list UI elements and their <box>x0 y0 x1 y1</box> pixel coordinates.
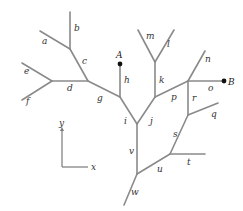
edge-label-o: o <box>208 83 214 93</box>
edge-label-p: p <box>171 92 177 102</box>
edge-label-i: i <box>124 116 127 126</box>
edge-l <box>155 30 174 62</box>
edge-label-s: s <box>173 129 178 139</box>
edge-label-b: b <box>74 23 80 33</box>
edge-g <box>88 81 120 97</box>
point-A-dot-icon <box>118 62 123 67</box>
edge-label-k: k <box>159 75 164 85</box>
edge-label-r: r <box>192 93 197 103</box>
edge-label-u: u <box>157 164 163 174</box>
edge-i <box>120 97 137 124</box>
point-B-dot-icon <box>222 79 227 84</box>
edge-label-t: t <box>187 157 191 167</box>
edges-group <box>22 12 224 205</box>
x-axis-label: x <box>91 162 96 172</box>
edge-label-l: l <box>167 39 170 49</box>
edge-label-q: q <box>211 109 217 119</box>
edge-label-d: d <box>67 83 73 93</box>
y-axis-label: y <box>58 118 65 128</box>
edge-label-w: w <box>131 187 139 197</box>
edge-label-v: v <box>129 146 134 156</box>
edge-label-c: c <box>82 56 87 66</box>
point-label-B: B <box>227 77 235 87</box>
edge-label-m: m <box>146 31 155 41</box>
edge-label-f: f <box>25 96 31 106</box>
coordinate-axes: y x <box>58 118 96 172</box>
edge-label-a: a <box>42 36 47 46</box>
edge-label-n: n <box>205 54 211 64</box>
edge-label-h: h <box>124 75 130 85</box>
edge-u <box>137 154 170 174</box>
tree-diagram: abcdefghijklmnopqrstuvw AB y x <box>0 0 243 211</box>
point-label-A: A <box>115 50 123 60</box>
edge-label-g: g <box>97 93 103 103</box>
edge-label-e: e <box>24 66 29 76</box>
edge-label-j: j <box>148 116 153 126</box>
edge-n <box>188 51 205 81</box>
